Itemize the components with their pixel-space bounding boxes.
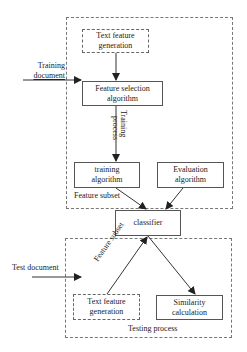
evaluation-algorithm-node: Evaluation algorithm <box>157 162 224 188</box>
region-label: Feature subset <box>74 191 120 200</box>
label-line1: Training <box>119 110 128 137</box>
node-label-line1: Text feature <box>96 31 134 41</box>
similarity-calculation-node: Similarity calculation <box>156 295 223 320</box>
test-text-feature-node: Text feature generation <box>73 294 140 320</box>
training-document-label: Training <box>34 61 65 71</box>
node-label-line2: algorithm <box>173 175 208 185</box>
region-label: Testing process <box>128 324 177 333</box>
node-label-line1: Text feature <box>87 297 125 307</box>
node-label-line2: algorithm <box>95 94 149 104</box>
node-label-line2: generation <box>87 307 125 317</box>
testing-process-label: Testing process <box>128 324 177 334</box>
node-label-line2: algorithm <box>91 175 122 185</box>
label-line2: process <box>111 116 120 140</box>
test-document-label: Test document <box>12 263 59 273</box>
node-label-line1: Evaluation <box>173 165 208 175</box>
flowchart-diagram: Text feature generation Feature selectio… <box>0 0 247 352</box>
label-line1: Training <box>34 61 65 71</box>
node-label-line2: calculation <box>172 308 207 318</box>
feature-selection-node: Feature selection algorithm <box>82 81 163 106</box>
training-process-label: Training <box>119 110 128 137</box>
label-text: Test document <box>12 263 59 272</box>
training-process-label-2: process <box>111 116 120 140</box>
training-document-label-2: document <box>30 71 65 81</box>
label-line2: document <box>30 71 65 81</box>
node-label: classifier <box>134 218 163 228</box>
node-label-line2: generation <box>96 41 134 51</box>
train-text-feature-node: Text feature generation <box>82 29 149 53</box>
training-algorithm-node: training algorithm <box>74 162 140 188</box>
node-label-line1: Similarity <box>172 298 207 308</box>
training-region-feature-subset-label: Feature subset <box>74 191 120 201</box>
classifier-node: classifier <box>115 210 181 236</box>
node-label-line1: training <box>91 165 122 175</box>
node-label-line1: Feature selection <box>95 84 149 94</box>
